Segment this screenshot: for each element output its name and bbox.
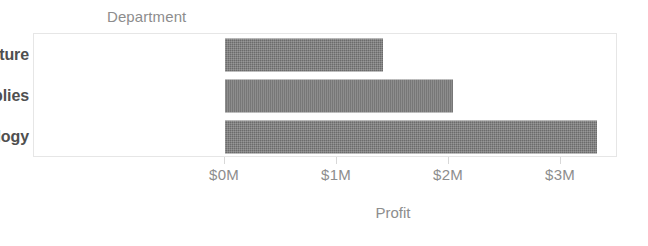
- value-axis: $0M$1M$2M$3M: [33, 157, 617, 167]
- axis-tick-mark: [448, 157, 449, 164]
- bar-row: Furniture: [34, 34, 616, 75]
- bar-technology[interactable]: [225, 121, 597, 154]
- axis-tick-label: $2M: [433, 166, 463, 183]
- bar-category-label-furniture: Furniture: [0, 46, 29, 64]
- category-axis-title: Department: [107, 8, 186, 25]
- axis-tick-mark: [560, 157, 561, 164]
- bar-track: [225, 121, 597, 154]
- bar-furniture[interactable]: [225, 38, 383, 71]
- bar-row: Office Supplies: [34, 75, 616, 116]
- axis-tick-mark: [336, 157, 337, 164]
- value-axis-title: Profit: [225, 204, 561, 221]
- bar-row: Technology: [34, 117, 616, 158]
- profit-by-department-bar-chart: Department Furniture Office Supplies Tec…: [0, 0, 648, 246]
- axis-tick-label: $3M: [545, 166, 575, 183]
- bar-track: [225, 38, 383, 71]
- bar-category-label-office-supplies: Office Supplies: [0, 87, 29, 105]
- plot-area: Furniture Office Supplies Technology: [33, 33, 617, 157]
- bar-category-label-technology: Technology: [0, 128, 29, 146]
- axis-tick-mark: [224, 157, 225, 164]
- bar-office-supplies[interactable]: [225, 79, 453, 112]
- axis-tick-label: $1M: [321, 166, 351, 183]
- axis-tick-label: $0M: [209, 166, 239, 183]
- bar-track: [225, 79, 453, 112]
